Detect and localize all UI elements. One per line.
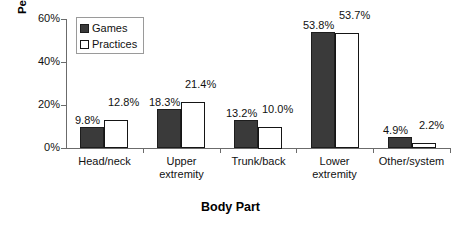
y-axis-tick-label: 20%: [16, 99, 60, 110]
x-axis-separator-tick: [220, 148, 221, 153]
x-axis-tick-label-line: Trunk/back: [220, 155, 297, 168]
y-axis-tick: [61, 19, 66, 20]
x-axis-tick-label-line: Lower: [296, 155, 373, 168]
y-axis-tick-label-text: 40%: [20, 56, 60, 67]
bar-value-label: 53.8%: [303, 19, 334, 31]
y-axis-line: [66, 19, 67, 149]
x-axis-tick-label: Other/system: [373, 155, 450, 168]
y-axis-tick: [61, 62, 66, 63]
bar: [335, 33, 359, 148]
x-axis-tick-label-line: extremity: [296, 168, 373, 181]
y-axis-tick: [61, 148, 66, 149]
x-axis-tick-label: Head/neck: [66, 155, 143, 168]
bar-value-label: 13.2%: [226, 107, 257, 119]
y-axis-tick: [61, 105, 66, 106]
x-axis-tick-label-line: Upper: [143, 155, 220, 168]
x-axis-tick-label: Upperextremity: [143, 155, 220, 181]
bar: [157, 109, 181, 148]
bar: [234, 120, 258, 148]
x-axis-separator-tick: [450, 148, 451, 153]
bar: [412, 143, 436, 148]
y-axis-tick-label: 0%: [16, 142, 60, 153]
bar-value-label: 2.2%: [419, 119, 444, 131]
y-axis-tick-label-text: 0%: [20, 142, 60, 153]
bar-value-label: 21.4%: [185, 78, 216, 90]
bar: [388, 137, 412, 148]
bar-value-label: 9.8%: [75, 114, 100, 126]
x-axis-separator-tick: [143, 148, 144, 153]
bar-value-label: 4.9%: [383, 124, 408, 136]
bar-value-label: 12.8%: [108, 96, 139, 108]
x-axis-tick-label-line: Other/system: [373, 155, 450, 168]
legend-label-practices: Practices: [92, 38, 137, 50]
legend-label-games: Games: [92, 22, 127, 34]
bar-value-label: 18.3%: [149, 96, 180, 108]
y-axis-tick-label-text: 20%: [20, 99, 60, 110]
bar: [258, 127, 282, 149]
legend: Games Practices: [76, 17, 144, 54]
bar: [80, 127, 104, 148]
y-axis-tick-label: 40%: [16, 56, 60, 67]
x-axis-title: Body Part: [0, 200, 461, 214]
bar-value-label: 53.7%: [339, 9, 370, 21]
bar: [104, 120, 128, 148]
x-axis-tick-label-line: extremity: [143, 168, 220, 181]
x-axis-tick-label: Lowerextremity: [296, 155, 373, 181]
legend-item-practices: Practices: [80, 36, 140, 52]
y-axis-title: Percentage of Injuries: [9, 8, 31, 160]
legend-item-games: Games: [80, 20, 140, 36]
legend-swatch-practices-icon: [80, 40, 89, 49]
bar: [311, 32, 335, 148]
legend-swatch-games-icon: [80, 24, 89, 33]
x-axis-separator-tick: [296, 148, 297, 153]
y-axis-tick-label-text: 60%: [20, 13, 60, 24]
bar: [181, 102, 205, 148]
x-axis-tick-label: Trunk/back: [220, 155, 297, 168]
chart-figure: Percentage of Injuries 0%20%40%60% 9.8%1…: [0, 0, 461, 234]
x-axis-tick-label-line: Head/neck: [66, 155, 143, 168]
x-axis-separator-tick: [373, 148, 374, 153]
bar-value-label: 10.0%: [262, 103, 293, 115]
y-axis-tick-label: 60%: [16, 13, 60, 24]
